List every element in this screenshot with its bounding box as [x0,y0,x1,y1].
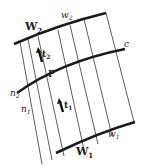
label-n2: n2 [10,88,20,99]
label-W1: W1 [75,145,93,160]
wall-curve-diagram: W2 w2 t2 P c n2 n1 t1 w1 W1 [0,0,141,166]
label-t1: t1 [64,100,72,111]
transversal-line [106,13,134,122]
transversal-line [84,19,112,136]
label-W2: W2 [24,20,42,35]
label-t2: t2 [42,49,50,60]
tangent-arrow-t1 [57,98,63,112]
label-P: P [48,69,55,79]
curve-c [17,49,125,93]
transversal-line [70,25,98,144]
label-c: c [124,39,129,49]
wall-curve-w1 [56,122,135,153]
label-w1: w1 [108,129,120,140]
transversal-line [58,30,84,150]
label-w2: w2 [61,10,73,21]
transversal-line [20,42,42,164]
label-n1: n1 [21,104,31,115]
